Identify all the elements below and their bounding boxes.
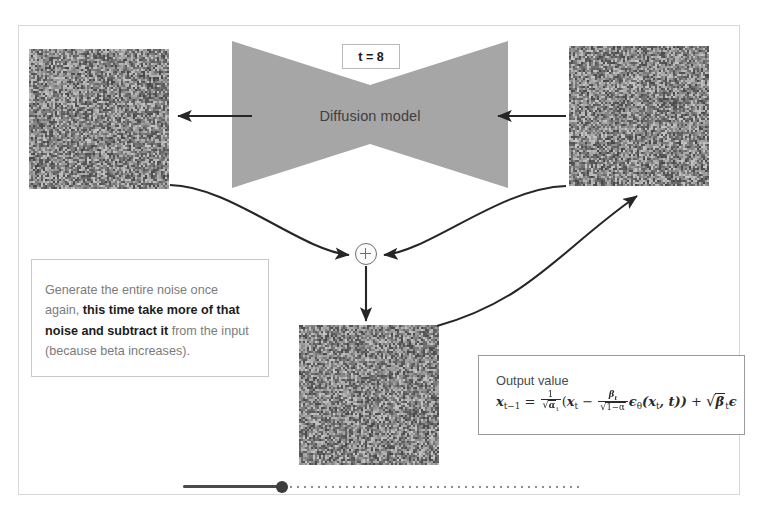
timeline-handle[interactable] (276, 481, 288, 493)
formula-coef-alpha: α (548, 400, 557, 410)
noise-image-bottom (299, 325, 439, 465)
formula-epsilon-args: (x (642, 394, 656, 409)
noise-image-right (569, 46, 709, 186)
explanation-note-box: Generate the entire noise once again, th… (31, 259, 269, 377)
formula-plus: + (691, 394, 702, 409)
formula-beta-den-body: 1−α (605, 402, 625, 412)
formula-beta-numerator: βt (598, 390, 628, 401)
timeline-slider[interactable] (183, 481, 583, 493)
formula-beta-fraction: βt √1−α (598, 390, 628, 412)
addition-node (355, 243, 377, 265)
formula-tail-beta: β (715, 393, 726, 409)
noise-image-left (29, 49, 169, 189)
explanation-note-text: Generate the entire noise once again, th… (45, 280, 254, 362)
output-formula-box: Output value xt−1 = 1 √αt (xt − βt √1−α … (478, 355, 745, 435)
formula-beta-denominator: √1−α (598, 401, 628, 412)
formula-equals: = (524, 394, 535, 409)
timeline-track-elapsed (183, 485, 283, 488)
note-bold-2: subtract it (107, 324, 168, 338)
formula-beta-sub: t (614, 395, 617, 401)
formula-minus: − (582, 394, 593, 409)
diffusion-model-label: Diffusion model (232, 108, 508, 124)
formula-coef-numerator: 1 (541, 390, 561, 399)
timestep-badge-label: t = 8 (358, 50, 383, 64)
formula-lhs: x (496, 394, 504, 409)
slide-canvas: Diffusion model t = 8 Generate the entir… (0, 0, 776, 513)
formula-coefficient-fraction: 1 √αt (541, 390, 561, 412)
formula-epsilon-args-tail: , t)) (659, 394, 686, 409)
formula-coef-denominator: √αt (541, 399, 561, 412)
formula-lhs-sub: t−1 (504, 401, 521, 411)
note-line-3: beta increases). (100, 344, 190, 358)
formula-tail-epsilon: ϵ (729, 394, 737, 409)
formula-title: Output value (496, 373, 744, 388)
timeline-track-remaining (283, 486, 583, 488)
formula-epsilon-theta: ϵ (629, 394, 637, 409)
formula-expression: xt−1 = 1 √αt (xt − βt √1−α ϵθ(xt, t)) + … (496, 391, 744, 413)
timestep-badge: t = 8 (342, 44, 400, 69)
formula-coef-alpha-sub: t (556, 406, 558, 412)
formula-xt-sub: t (574, 401, 578, 411)
